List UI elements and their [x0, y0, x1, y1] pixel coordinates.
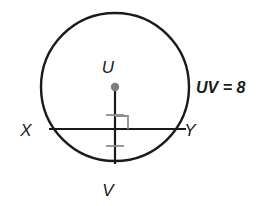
circle-geometry-diagram: U X Y V UV = 8	[0, 0, 280, 206]
label-uv-measure: UV = 8	[196, 79, 245, 96]
center-point-u	[111, 83, 119, 91]
label-v: V	[102, 181, 115, 200]
label-y: Y	[184, 121, 197, 140]
label-x: X	[19, 121, 32, 140]
label-u: U	[102, 58, 115, 77]
geometry-figure-container: U X Y V UV = 8	[0, 0, 280, 206]
